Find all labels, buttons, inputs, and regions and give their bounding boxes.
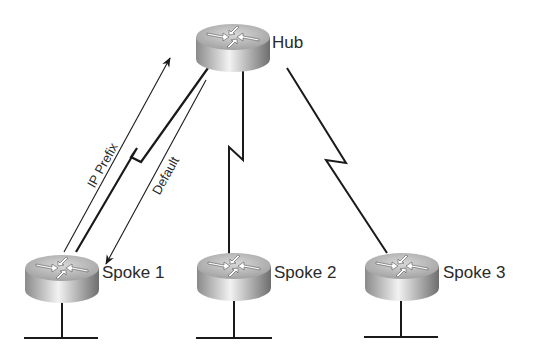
ip-prefix-arrow bbox=[64, 58, 170, 252]
router-icon-spoke1[interactable] bbox=[25, 255, 99, 303]
hub-label: Hub bbox=[272, 33, 303, 53]
router-icon-spoke3[interactable] bbox=[365, 253, 439, 301]
link-spoke2-hub bbox=[229, 70, 243, 255]
network-diagram: Hub Spoke 1 Spoke 2 Spoke 3 IP Prefix De… bbox=[0, 0, 541, 351]
default-arrow bbox=[106, 80, 206, 264]
router-icon-hub[interactable] bbox=[196, 24, 270, 72]
spoke3-label: Spoke 3 bbox=[443, 263, 505, 283]
link-spoke3-hub bbox=[287, 68, 387, 253]
lan-segments bbox=[24, 298, 438, 338]
spoke2-label: Spoke 2 bbox=[274, 263, 336, 283]
router-icon-spoke2[interactable] bbox=[197, 253, 271, 301]
spoke1-label: Spoke 1 bbox=[102, 263, 164, 283]
